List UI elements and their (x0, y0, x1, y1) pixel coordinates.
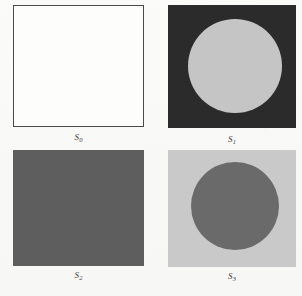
panel-s1-circle (188, 19, 282, 113)
panel-s3-caption: S3 (168, 272, 296, 283)
panel-s2-caption: S2 (13, 271, 144, 282)
panel-s3-circle (191, 162, 279, 250)
panel-s1-caption: S1 (168, 135, 296, 146)
panel-s0-square (13, 5, 144, 127)
panel-s1-square (168, 5, 296, 128)
panel-s0-caption: S0 (13, 133, 144, 144)
panel-s2-caption-subscript: 2 (79, 274, 82, 281)
panel-s1-caption-subscript: 1 (233, 138, 236, 145)
panel-s2-square (13, 150, 144, 266)
panel-s3-caption-subscript: 3 (233, 275, 236, 282)
figure-panel-grid: S0 S1 S2 S3 (0, 0, 302, 296)
panel-s3-square (168, 150, 296, 267)
panel-s0-caption-subscript: 0 (79, 136, 82, 143)
